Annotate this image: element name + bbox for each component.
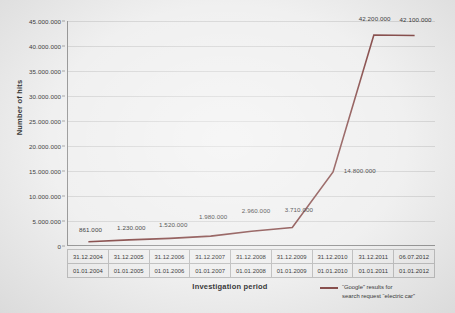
- data-point-label: 42.100.000: [400, 15, 432, 22]
- y-axis-tick-mark: [62, 171, 65, 172]
- x-axis-start-date-cell: 01.01.2009: [271, 264, 312, 278]
- x-axis-end-date-cell: 06.07.2012: [394, 250, 435, 264]
- y-axis-tick-label: 30.000.000: [29, 93, 61, 100]
- x-axis-end-date-cell: 31.12.2009: [271, 250, 312, 264]
- x-axis-start-date-cell: 01.01.2011: [353, 264, 394, 278]
- y-axis-tick-mark: [62, 196, 65, 197]
- x-axis-start-dates-row: 01.01.200401.01.200501.01.200601.01.2007…: [68, 264, 435, 278]
- y-axis-tick-mark: [62, 246, 65, 247]
- data-point-label: 42.200.000: [359, 15, 391, 22]
- y-axis-tick-label: 40.000.000: [29, 43, 61, 50]
- y-axis-tick-label: 10.000.000: [29, 193, 61, 200]
- plot-area: 861.0001.230.0001.520.0001.980.0002.960.…: [67, 21, 435, 246]
- y-axis-tick-mark: [62, 96, 65, 97]
- y-axis-tick-label: 20.000.000: [29, 143, 61, 150]
- data-point-label: 861.000: [79, 225, 102, 232]
- legend-line-swatch-icon: [320, 287, 338, 289]
- data-point-label: 2.960.000: [242, 207, 270, 214]
- y-axis-tick-label: 15.000.000: [29, 168, 61, 175]
- x-axis-start-date-cell: 01.01.2005: [108, 264, 149, 278]
- x-axis-start-date-cell: 01.01.2007: [190, 264, 231, 278]
- x-axis-end-date-cell: 31.12.2011: [353, 250, 394, 264]
- line-chart: Number of hits 05.000.00010.000.00015.00…: [0, 0, 455, 313]
- chart-legend: “Google” results for search request “ele…: [320, 283, 415, 301]
- data-point-label: 14.800.000: [344, 167, 376, 174]
- x-axis-end-dates-row: 31.12.200431.12.200531.12.200631.12.2007…: [68, 250, 435, 264]
- x-axis-end-date-cell: 31.12.2004: [68, 250, 109, 264]
- x-axis-start-date-cell: 01.01.2006: [149, 264, 190, 278]
- x-axis-end-date-cell: 31.12.2008: [231, 250, 272, 264]
- x-axis-category-table: 31.12.200431.12.200531.12.200631.12.2007…: [67, 249, 435, 278]
- legend-label-line-1: “Google” results for: [342, 284, 392, 290]
- legend-label: “Google” results for search request “ele…: [342, 283, 415, 301]
- legend-label-line-2: search request “electric car”: [342, 293, 415, 299]
- data-point-label: 1.520.000: [159, 221, 187, 228]
- y-axis-tick-label: 25.000.000: [29, 118, 61, 125]
- data-point-label: 1.230.000: [117, 223, 145, 230]
- y-axis-tick-label: 0: [57, 243, 61, 250]
- x-axis-start-date-cell: 01.01.2010: [312, 264, 353, 278]
- y-axis-tick-mark: [62, 146, 65, 147]
- y-axis-tick-labels: 05.000.00010.000.00015.000.00020.000.000…: [0, 0, 66, 313]
- y-axis-tick-mark: [62, 21, 65, 22]
- data-point-label: 3.710.000: [285, 206, 313, 213]
- y-axis-tick-mark: [62, 221, 65, 222]
- x-axis-end-date-cell: 31.12.2006: [149, 250, 190, 264]
- y-axis-tick-mark: [62, 121, 65, 122]
- x-axis-end-date-cell: 31.12.2010: [312, 250, 353, 264]
- y-axis-tick-label: 5.000.000: [33, 218, 61, 225]
- x-axis-start-date-cell: 01.01.2004: [68, 264, 109, 278]
- y-axis-tick-mark: [62, 71, 65, 72]
- x-axis-start-date-cell: 01.01.2012: [394, 264, 435, 278]
- chart-root: Number of hits 05.000.00010.000.00015.00…: [0, 0, 455, 313]
- y-axis-tick-mark: [62, 46, 65, 47]
- x-axis-start-date-cell: 01.01.2008: [231, 264, 272, 278]
- y-axis-tick-label: 35.000.000: [29, 68, 61, 75]
- x-axis-end-date-cell: 31.12.2007: [190, 250, 231, 264]
- x-axis-title: Investigation period: [150, 282, 310, 291]
- y-axis-tick-label: 45.000.000: [29, 18, 61, 25]
- data-point-label: 1.980.000: [199, 213, 227, 220]
- x-axis-end-date-cell: 31.12.2005: [108, 250, 149, 264]
